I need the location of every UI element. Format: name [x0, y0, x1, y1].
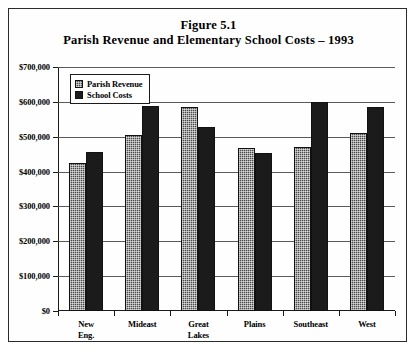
chart-plot-area: $0$100,000$200,000$300,000$400,000$500,0… [58, 67, 395, 311]
legend-swatch-icon-parish-revenue [75, 80, 83, 88]
x-axis-tick [339, 311, 340, 316]
bar-group [227, 67, 283, 311]
x-axis-category-label: Southeast [283, 319, 339, 340]
x-axis-tick [114, 311, 115, 316]
x-axis-category-label: GreatLakes [170, 319, 226, 340]
bar-group [283, 67, 339, 311]
figure-title-line-1: Figure 5.1 [181, 18, 237, 32]
y-axis-tick-label: $500,000 [19, 132, 50, 142]
bar-parish-revenue [181, 107, 198, 311]
bar-school-costs [255, 153, 272, 311]
legend-swatch-icon-school-costs [75, 91, 83, 99]
bar-school-costs [198, 127, 215, 311]
x-axis-tick [395, 311, 396, 316]
bar-parish-revenue [294, 147, 311, 311]
x-axis-category-label: Mideast [114, 319, 170, 340]
y-axis-tick-label: $100,000 [19, 271, 50, 281]
bar-parish-revenue [350, 133, 367, 311]
x-axis-category-label-line: Eng. [58, 330, 114, 341]
y-axis-tick-label: $200,000 [19, 236, 50, 246]
figure-title: Figure 5.1 Parish Revenue and Elementary… [9, 18, 408, 48]
bar-parish-revenue [125, 135, 142, 311]
y-axis-tick-label: $700,000 [19, 62, 50, 72]
x-axis-category-label-line: Southeast [283, 319, 339, 330]
bar-group [170, 67, 226, 311]
x-axis-tick [58, 311, 59, 316]
x-axis-category-label: West [339, 319, 395, 340]
x-axis-category-label-line: Plains [227, 319, 283, 330]
legend-entry-parish-revenue: Parish Revenue [75, 78, 143, 89]
bar-school-costs [142, 106, 159, 311]
x-axis-tick [283, 311, 284, 316]
x-axis-category-label-line: New [58, 319, 114, 330]
x-tick-layer [58, 311, 395, 312]
x-axis-category-label: Plains [227, 319, 283, 340]
bar-school-costs [86, 152, 103, 311]
bar-parish-revenue [69, 163, 86, 311]
legend-label-parish-revenue: Parish Revenue [87, 79, 143, 89]
bar-group [339, 67, 395, 311]
x-axis-category-label-line: Mideast [114, 319, 170, 330]
x-axis-category-label-line: West [339, 319, 395, 330]
x-axis-category-label: NewEng. [58, 319, 114, 340]
bar-school-costs [367, 107, 384, 311]
x-axis-labels: NewEng.MideastGreatLakesPlainsSoutheastW… [58, 319, 395, 340]
y-axis-tick-label: $600,000 [19, 97, 50, 107]
figure-frame: Figure 5.1 Parish Revenue and Elementary… [8, 8, 407, 342]
y-axis-tick-label: $400,000 [19, 167, 50, 177]
legend-entry-school-costs: School Costs [75, 89, 143, 100]
x-axis-tick [227, 311, 228, 316]
chart-legend: Parish Revenue School Costs [70, 74, 150, 104]
x-axis-tick [170, 311, 171, 316]
bar-school-costs [311, 102, 328, 311]
x-axis-category-label-line: Lakes [170, 330, 226, 341]
bar-parish-revenue [238, 148, 255, 311]
y-axis-tick-label: $300,000 [19, 201, 50, 211]
legend-label-school-costs: School Costs [87, 90, 132, 100]
figure-title-line-2: Parish Revenue and Elementary School Cos… [9, 33, 408, 48]
y-axis-tick-label: $0 [42, 306, 50, 316]
x-axis-category-label-line: Great [170, 319, 226, 330]
